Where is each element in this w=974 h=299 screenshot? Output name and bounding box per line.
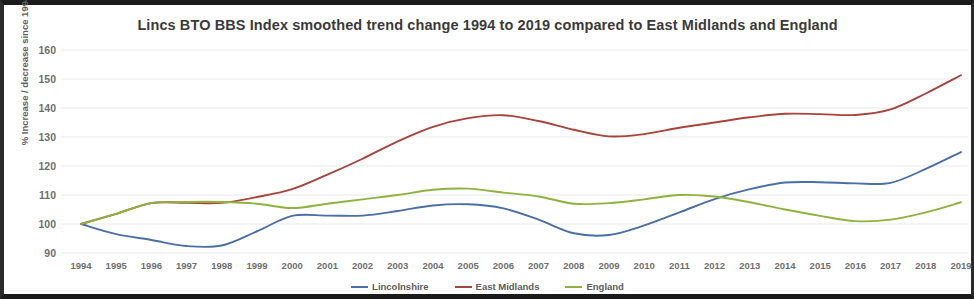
legend-item-label: Lincolnshire	[372, 281, 428, 292]
gridlines	[61, 50, 968, 253]
x-axis-tick-label: 1999	[246, 260, 267, 271]
legend-swatch-icon	[351, 286, 368, 288]
chart-plot-area	[4, 5, 974, 299]
legend-item[interactable]: East Midlands	[455, 281, 540, 292]
chart-frame: Lincs BTO BBS Index smoothed trend chang…	[0, 0, 974, 299]
legend-swatch-icon	[565, 286, 582, 288]
x-axis-tick-label: 1997	[176, 260, 197, 271]
legend-item-label: England	[586, 281, 623, 292]
x-axis-tick-label: 2012	[704, 260, 725, 271]
x-axis-tick-label: 2015	[810, 260, 831, 271]
x-axis-tick-label: 1998	[211, 260, 232, 271]
x-axis-tick-label: 1996	[141, 260, 162, 271]
x-axis-tick-label: 2001	[317, 260, 338, 271]
x-axis-tick-label: 2014	[774, 260, 795, 271]
x-axis-tick-label: 1995	[106, 260, 127, 271]
x-axis-tick-label: 1994	[70, 260, 91, 271]
legend-item-label: East Midlands	[476, 281, 540, 292]
x-axis-tick-label: 2009	[598, 260, 619, 271]
x-axis-tick-label: 2017	[880, 260, 901, 271]
x-axis-tick-label: 2019	[950, 260, 971, 271]
series-line-england	[81, 188, 961, 224]
x-axis-tick-label: 2000	[282, 260, 303, 271]
legend-item[interactable]: England	[565, 281, 623, 292]
x-axis-tick-label: 2002	[352, 260, 373, 271]
chart-legend: LincolnshireEast MidlandsEngland	[4, 281, 971, 292]
x-axis-tick-label: 2004	[422, 260, 443, 271]
x-axis-tick-label: 2013	[739, 260, 760, 271]
series-lines	[81, 75, 961, 247]
x-axis-tick-label: 2010	[634, 260, 655, 271]
chart-canvas: Lincs BTO BBS Index smoothed trend chang…	[4, 5, 971, 294]
legend-swatch-icon	[455, 286, 472, 288]
x-axis-tick-label: 2018	[915, 260, 936, 271]
x-axis-tick-label: 2006	[493, 260, 514, 271]
x-axis-tick-label: 2011	[669, 260, 690, 271]
x-axis-tick-label: 2005	[458, 260, 479, 271]
x-axis-tick-label: 2016	[845, 260, 866, 271]
x-axis-tick-label: 2007	[528, 260, 549, 271]
x-axis-tick-label: 2003	[387, 260, 408, 271]
x-axis-tick-label: 2008	[563, 260, 584, 271]
legend-item[interactable]: Lincolnshire	[351, 281, 428, 292]
